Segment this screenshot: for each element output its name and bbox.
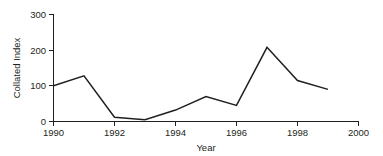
y-tick-label-0: 0: [41, 116, 46, 127]
y-axis-title: Collated Index: [11, 37, 22, 98]
x-tick-label-1992: 1992: [104, 127, 125, 138]
line-chart: 300 200 100 0 1990 1992 1994 1996 1998 2…: [0, 0, 383, 156]
x-tick-label-1990: 1990: [43, 127, 64, 138]
y-tick-label-200: 200: [30, 45, 46, 56]
y-tick-label-100: 100: [30, 80, 46, 91]
x-tick-label-1998: 1998: [287, 127, 308, 138]
y-tick-label-300: 300: [30, 9, 46, 20]
x-tick-label-1996: 1996: [226, 127, 247, 138]
x-tick-label-1994: 1994: [165, 127, 186, 138]
data-series-line: [54, 47, 329, 119]
chart-canvas: 300 200 100 0 1990 1992 1994 1996 1998 2…: [0, 0, 383, 156]
x-axis-title: Year: [196, 142, 215, 153]
x-tick-label-2000: 2000: [348, 127, 369, 138]
